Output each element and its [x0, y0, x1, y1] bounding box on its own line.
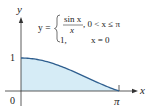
formula-case2-value: 1,	[60, 36, 67, 45]
formula-case2-condition: x = 0	[91, 36, 110, 45]
origin-label: 0	[10, 96, 15, 106]
formula-case1-condition: , 0 < x ≤ π	[83, 20, 120, 29]
x-tick-pi: π	[114, 96, 120, 107]
formula-denominator: x	[70, 26, 74, 35]
y-axis-arrow-icon	[19, 17, 23, 23]
y-axis-label: y	[17, 4, 22, 15]
formula-numerator: sin x	[64, 15, 81, 24]
y-tick-one: 1	[10, 53, 15, 63]
formula-lhs: y =	[38, 24, 50, 34]
x-axis-label: x	[140, 85, 145, 96]
x-axis-arrow-icon	[132, 89, 138, 93]
